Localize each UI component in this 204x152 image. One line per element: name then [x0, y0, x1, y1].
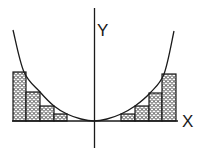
right-bar-2 — [135, 106, 149, 121]
right-bars-group — [121, 74, 176, 121]
left-bar-1 — [13, 72, 26, 121]
left-bar-3 — [40, 106, 54, 121]
right-bar-4 — [162, 74, 176, 121]
right-bar-3 — [149, 93, 162, 121]
right-bar-1 — [121, 114, 135, 121]
y-axis-label: Y — [97, 22, 108, 39]
x-axis-label: X — [182, 113, 193, 130]
left-bar-2 — [26, 92, 40, 121]
left-bar-4 — [54, 114, 67, 121]
left-bars-group — [13, 72, 67, 121]
